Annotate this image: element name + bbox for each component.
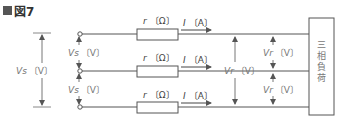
receiving-voltage-total-label: Vr〔V〕 <box>224 66 260 76</box>
source-voltage-phase-label-1: Vs〔V〕 <box>68 48 105 58</box>
resistor-2 <box>137 66 178 77</box>
receiving-voltage-phase-label-2: Vr〔V〕 <box>263 85 299 95</box>
terminal-2 <box>78 69 82 73</box>
svg-text:負: 負 <box>317 61 326 72</box>
current-label-3: I〔A〕 <box>183 91 213 101</box>
resistor-label-2: r〔Ω〕 <box>143 53 175 63</box>
terminal-1 <box>78 32 82 36</box>
three-phase-load-label: 三 相 負 荷 <box>317 40 326 83</box>
current-label-1: I〔A〕 <box>183 18 213 28</box>
resistor-1 <box>137 29 178 40</box>
terminal-3 <box>78 105 82 109</box>
source-voltage-phase-label-2: Vs〔V〕 <box>68 85 105 95</box>
svg-text:三: 三 <box>317 40 326 50</box>
svg-text:荷: 荷 <box>317 73 326 83</box>
resistor-label-3: r〔Ω〕 <box>143 90 175 100</box>
resistor-label-1: r〔Ω〕 <box>143 16 175 26</box>
source-voltage-total-label: Vs〔V〕 <box>16 66 53 76</box>
receiving-voltage-phase-label-1: Vr〔V〕 <box>263 48 299 58</box>
resistor-3 <box>137 102 178 113</box>
current-label-2: I〔A〕 <box>183 55 213 65</box>
svg-text:相: 相 <box>317 50 326 61</box>
three-phase-circuit-diagram: Vs〔V〕 Vs〔V〕 Vs〔V〕 r〔Ω〕 r〔Ω〕 r〔Ω〕 I〔A〕 I〔… <box>0 0 351 125</box>
